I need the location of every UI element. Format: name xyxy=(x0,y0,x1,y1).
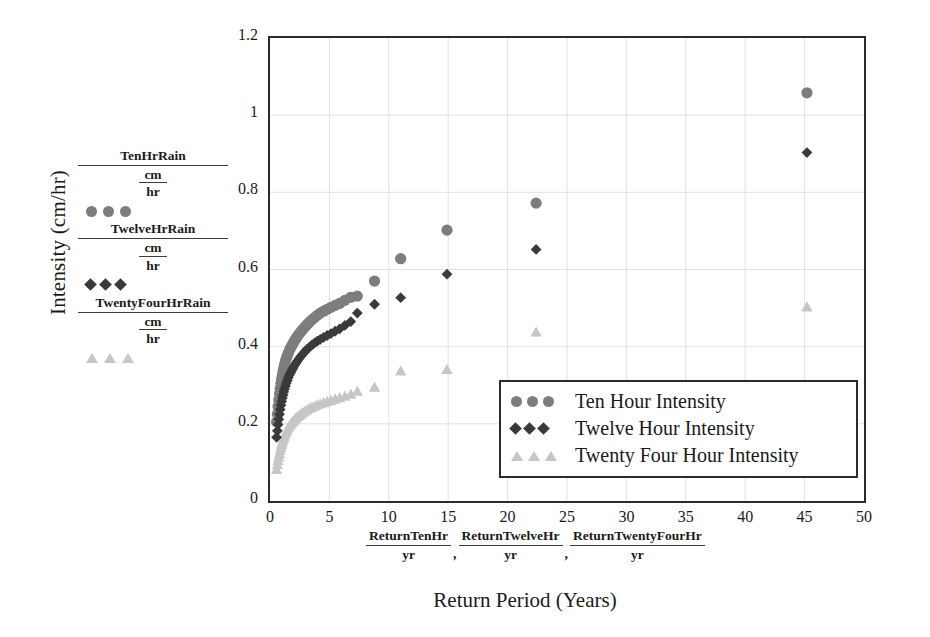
triangle-marker-icon xyxy=(104,353,116,363)
x-tick-label: 40 xyxy=(725,508,765,526)
y-axis-title: Intensity (cm/hr) xyxy=(46,143,71,343)
triangle-marker-icon xyxy=(122,353,134,363)
x-tick-label: 10 xyxy=(369,508,409,526)
legend-entry-twenty-four-hour: Twenty Four Hour Intensity xyxy=(509,442,848,469)
fraction-denominator: yr xyxy=(459,546,563,563)
legend-keys xyxy=(509,424,569,433)
unit-numerator: cm xyxy=(139,167,166,184)
label-separator: , xyxy=(453,546,457,563)
triangle-data-point xyxy=(801,301,812,311)
triangle-data-point xyxy=(441,364,452,374)
legend-label: Twelve Hour Intensity xyxy=(569,417,755,440)
diamond-marker-icon xyxy=(509,422,522,435)
fraction-numerator: TenHrRain xyxy=(78,148,228,166)
legend-entry-twelve-hour: Twelve Hour Intensity xyxy=(509,415,848,442)
variable-label-twenty-four-hour-rain: TwentyFourHrRain cm hr xyxy=(78,295,228,366)
x-tick-label: 20 xyxy=(488,508,528,526)
y-tick-label: 0 xyxy=(218,489,258,507)
variable-label-return-ten-hr: ReturnTenHr yr xyxy=(366,528,451,563)
marker-row-twenty-four-hour xyxy=(86,350,228,366)
label-separator: , xyxy=(565,546,569,563)
circle-marker-icon xyxy=(103,206,114,217)
diamond-marker-icon xyxy=(84,278,97,291)
fraction-ten-hour-rain: TenHrRain cm hr xyxy=(78,148,228,200)
diamond-marker-icon xyxy=(99,278,112,291)
bottom-variable-labels: ReturnTenHr yr , ReturnTwelveHr yr , Ret… xyxy=(366,528,705,563)
legend-keys xyxy=(509,396,569,407)
triangle-data-point xyxy=(531,326,542,336)
variable-label-ten-hour-rain: TenHrRain cm hr xyxy=(78,148,228,219)
triangle-marker-icon xyxy=(528,451,540,461)
y-tick-label: 0.2 xyxy=(218,412,258,430)
unit-numerator: cm xyxy=(139,240,166,257)
unit-numerator: cm xyxy=(139,314,166,331)
fraction-numerator: ReturnTwelveHr xyxy=(459,528,563,546)
circle-data-point xyxy=(369,275,380,286)
variable-label-twelve-hour-rain: TwelveHrRain cm hr xyxy=(78,221,228,292)
circle-data-point xyxy=(352,291,363,302)
fraction-numerator: TwelveHrRain xyxy=(78,221,228,239)
triangle-data-point xyxy=(395,365,406,375)
circle-marker-icon xyxy=(527,396,538,407)
unit-denominator: hr xyxy=(139,257,166,274)
fraction-numerator: TwentyFourHrRain xyxy=(78,295,228,313)
x-tick-label: 50 xyxy=(844,508,884,526)
y-tick-label: 1 xyxy=(218,103,258,121)
x-tick-label: 25 xyxy=(547,508,587,526)
diamond-marker-icon xyxy=(523,422,536,435)
unit-denominator: hr xyxy=(139,330,166,347)
diamond-data-point xyxy=(395,292,406,303)
marker-row-ten-hour xyxy=(86,203,228,219)
x-tick-label: 35 xyxy=(666,508,706,526)
diamond-data-point xyxy=(369,299,380,310)
x-tick-label: 15 xyxy=(428,508,468,526)
diamond-marker-icon xyxy=(114,278,127,291)
fraction-denominator: yr xyxy=(366,546,451,563)
triangle-data-point xyxy=(352,385,363,395)
variable-label-return-twelve-hr: ReturnTwelveHr yr xyxy=(459,528,563,563)
triangle-marker-icon xyxy=(86,353,98,363)
legend-label: Ten Hour Intensity xyxy=(569,390,726,413)
fraction-denominator: cm hr xyxy=(78,313,228,347)
circle-marker-icon xyxy=(120,206,131,217)
diamond-marker-icon xyxy=(537,422,550,435)
circle-data-point xyxy=(531,198,542,209)
fraction-denominator: yr xyxy=(570,546,705,563)
variable-label-return-twenty-four-hr: ReturnTwentyFourHr yr xyxy=(570,528,705,563)
y-tick-label: 0.8 xyxy=(218,180,258,198)
fraction-denominator: cm hr xyxy=(78,239,228,273)
circle-data-point xyxy=(801,87,812,98)
circle-data-point xyxy=(441,225,452,236)
x-tick-label: 30 xyxy=(606,508,646,526)
legend-entry-ten-hour: Ten Hour Intensity xyxy=(509,388,848,415)
marker-row-twelve-hour xyxy=(86,277,228,293)
x-tick-label: 0 xyxy=(250,508,290,526)
legend-label: Twenty Four Hour Intensity xyxy=(569,444,799,467)
y-tick-label: 0.4 xyxy=(218,335,258,353)
chart-legend: Ten Hour Intensity Twelve Hour Intensity… xyxy=(499,380,858,478)
circle-marker-icon xyxy=(511,396,522,407)
diamond-data-point xyxy=(352,308,363,319)
x-tick-label: 5 xyxy=(309,508,349,526)
diamond-data-point xyxy=(442,269,453,280)
triangle-data-point xyxy=(369,382,380,392)
circle-marker-icon xyxy=(86,206,97,217)
circle-marker-icon xyxy=(543,396,554,407)
diamond-data-point xyxy=(802,147,813,158)
fraction-numerator: ReturnTenHr xyxy=(366,528,451,546)
y-tick-label: 1.2 xyxy=(218,26,258,44)
triangle-marker-icon xyxy=(511,451,523,461)
fraction-twenty-four-hour-rain: TwentyFourHrRain cm hr xyxy=(78,295,228,347)
fraction-numerator: ReturnTwentyFourHr xyxy=(570,528,705,546)
legend-keys xyxy=(509,451,569,461)
circle-data-point xyxy=(395,253,406,264)
fraction-twelve-hour-rain: TwelveHrRain cm hr xyxy=(78,221,228,273)
triangle-marker-icon xyxy=(545,451,557,461)
fraction-denominator: cm hr xyxy=(78,166,228,200)
x-tick-label: 45 xyxy=(785,508,825,526)
left-variable-labels: TenHrRain cm hr TwelveHrRain cm hr xyxy=(78,148,228,368)
unit-denominator: hr xyxy=(139,183,166,200)
diamond-data-point xyxy=(531,244,542,255)
y-tick-label: 0.6 xyxy=(218,258,258,276)
x-axis-title: Return Period (Years) xyxy=(0,588,930,613)
